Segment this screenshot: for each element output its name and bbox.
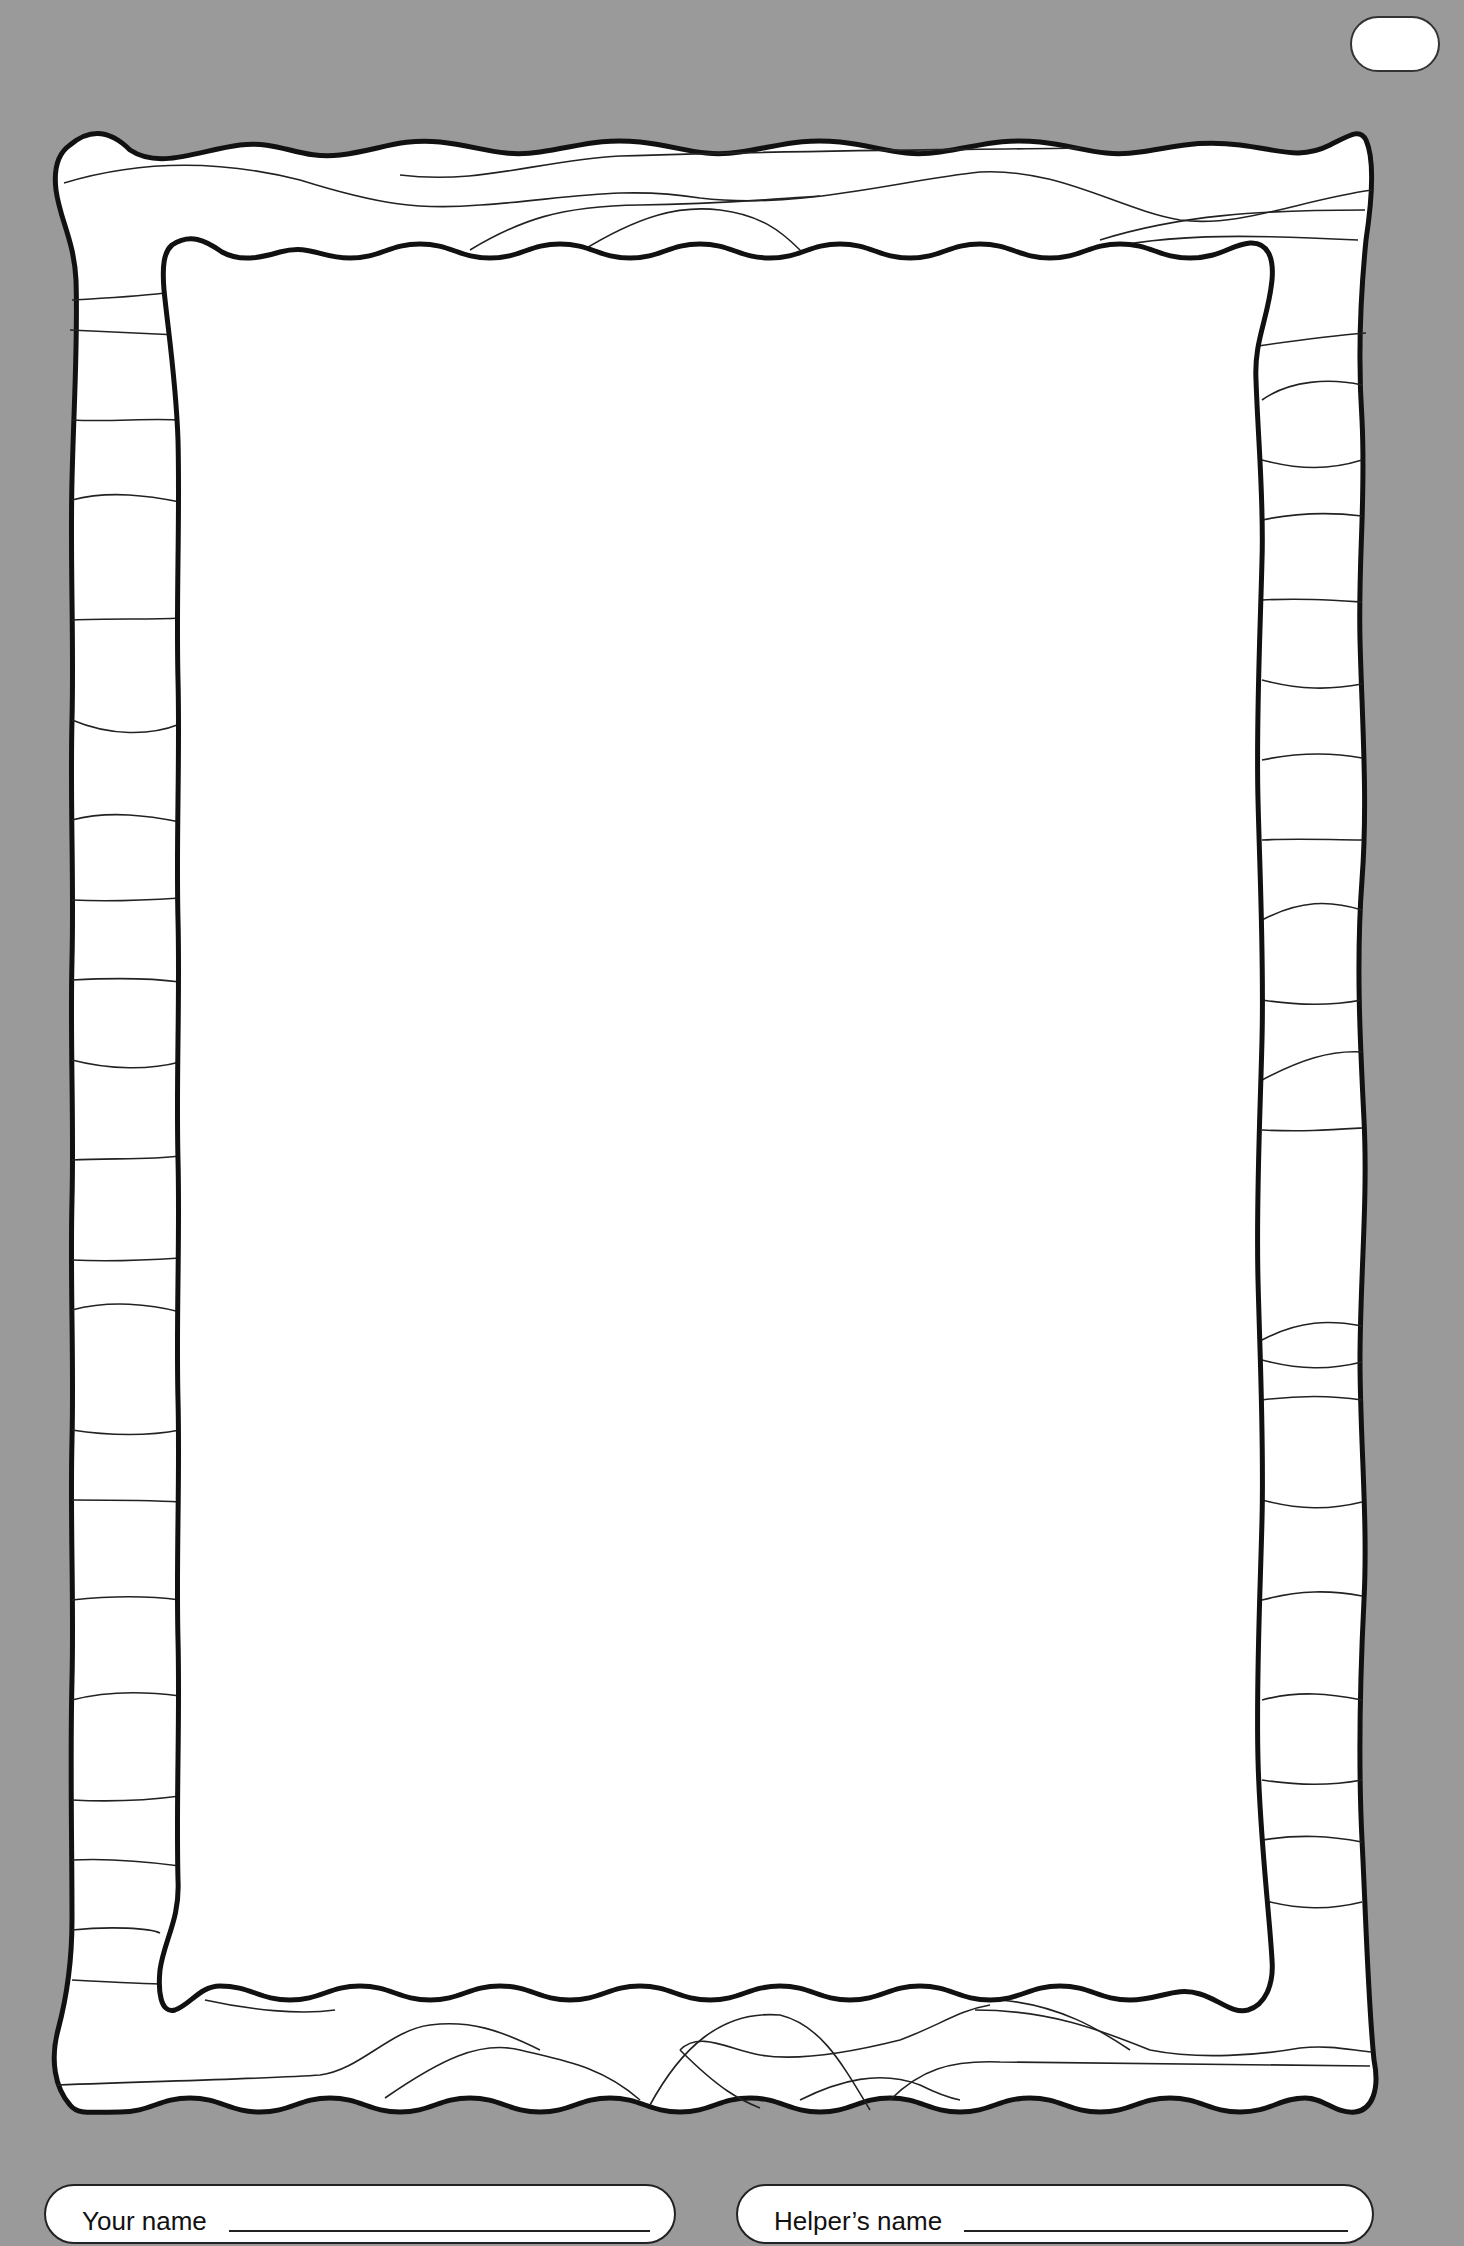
helper-name-label: Helper’s name [774, 2206, 942, 2237]
helper-name-field[interactable]: Helper’s name [736, 2184, 1374, 2244]
your-name-field[interactable]: Your name [44, 2184, 676, 2244]
drawing-area[interactable] [180, 270, 1260, 1950]
your-name-input-line[interactable] [229, 2230, 650, 2232]
helper-name-input-line[interactable] [964, 2230, 1348, 2232]
your-name-label: Your name [82, 2206, 207, 2237]
